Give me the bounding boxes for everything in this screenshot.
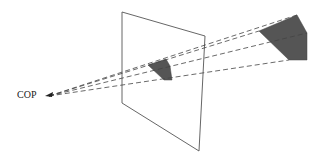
object [259,15,307,60]
perspective-diagram [0,0,325,158]
cop-label: COP [17,89,36,100]
cop-arrowhead-icon [45,92,53,97]
view-plane [122,12,205,151]
